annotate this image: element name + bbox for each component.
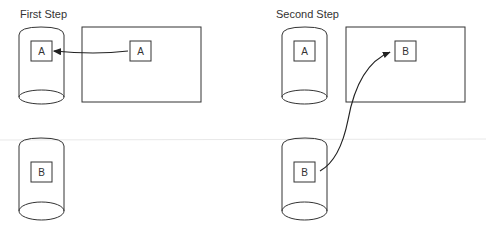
step1-disk-top <box>19 27 64 104</box>
step1-arrow <box>54 51 128 53</box>
step2-memory-item: B <box>402 46 409 57</box>
step1-disk-bottom <box>19 138 64 220</box>
step1-memory <box>82 27 201 102</box>
step2-arrow <box>320 52 390 171</box>
swap-diagram: A A B A B B <box>0 0 486 235</box>
separator-line <box>0 139 486 140</box>
step2-disk-bottom <box>282 138 327 220</box>
step1-disk-top-item: A <box>38 46 45 57</box>
step2-disk-top <box>282 27 327 104</box>
step2-disk-top-item: A <box>301 46 308 57</box>
step1-memory-item: A <box>137 46 144 57</box>
step2-memory <box>346 27 465 102</box>
step1-disk-bottom-item: B <box>38 167 45 178</box>
step2-disk-bottom-item: B <box>301 167 308 178</box>
